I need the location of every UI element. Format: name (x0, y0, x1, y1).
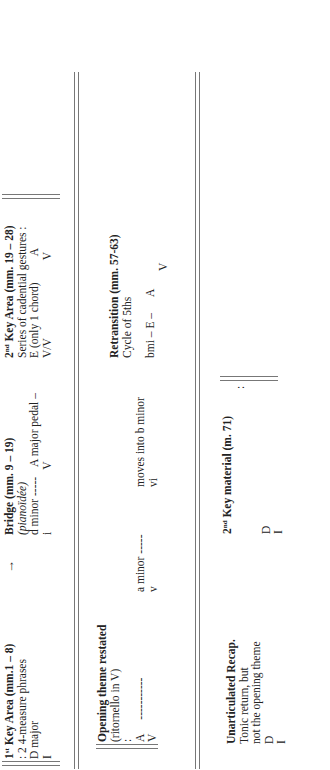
recap-line2: Tonic return, but (238, 639, 251, 744)
opening-double-barline (2, 761, 60, 766)
retransition-chain: bmi – E –A (144, 234, 157, 358)
a-minor-roman: v (147, 535, 160, 592)
bridge-section: Bridge (mm. 9 – 19) (pianoïdée) d minor … (3, 393, 53, 535)
second-key-area-romans: V/VV (41, 226, 54, 358)
form-chart-page: 1st Key Area (mm.1 – 8) : 2 4-measure ph… (0, 0, 330, 770)
bridge-keys: d minor -----A major pedal – (28, 393, 41, 535)
first-key-area-title: 1st Key Area (mm.1 – 8) (3, 644, 16, 759)
b-minor-key: moves into b minor (134, 397, 147, 487)
first-key-area-roman: I (41, 644, 54, 759)
bridge-subtitle: (pianoïdée) (16, 393, 29, 535)
opening-theme-key: A----------- (134, 625, 147, 742)
row-divider-1 (74, 72, 79, 769)
bridge-romans: iV (41, 393, 54, 535)
second-key-material-title: 2nd Key material (m. 71) (221, 416, 234, 534)
b-minor-section: moves into b minor vi (134, 397, 159, 487)
recap-key: D (263, 639, 276, 744)
retransition-subtitle: Cycle of 5ths (121, 234, 134, 358)
second-key-area-gestures: Series of cadential gestures : (16, 226, 29, 358)
opening-theme-repeat: : (121, 625, 134, 742)
unarticulated-recap: Unarticulated Recap. Tonic return, but n… (225, 639, 288, 744)
second-key-material-barline (220, 376, 278, 381)
second-key-material-roman: I (272, 416, 285, 534)
recap-line3: not the opening theme (250, 639, 263, 744)
opening-theme-title: Opening theme restated (96, 625, 109, 742)
bridge-title: Bridge (mm. 9 – 19) (3, 393, 16, 535)
second-key-area-title: 2nd Key Area (mm. 19 – 28) (3, 226, 16, 358)
a-minor-key: a minor ----- (134, 535, 147, 592)
opening-theme-roman: V (146, 625, 159, 742)
second-key-area-end-barline (2, 194, 60, 199)
second-key-material: 2nd Key material (m. 71) D I (221, 416, 285, 534)
retransition-section: Retransition (mm. 57-63) Cycle of 5ths b… (108, 234, 169, 358)
opening-theme-barline (96, 744, 158, 749)
a-minor-section: a minor ----- v (134, 535, 159, 592)
retransition-roman: V (157, 234, 170, 358)
opening-theme-subtitle: (ritornello in V) (109, 625, 122, 742)
row-divider-2 (195, 72, 200, 769)
second-key-area: 2nd Key Area (mm. 19 – 28) Series of cad… (3, 226, 53, 358)
first-key-area-phrases: : 2 4-measure phrases (16, 644, 29, 759)
retransition-title: Retransition (mm. 57-63) (108, 234, 121, 358)
recap-title: Unarticulated Recap. (225, 639, 238, 744)
second-key-material-repeat: : (234, 386, 247, 389)
second-key-area-keys: E (only 1 chord)A (28, 226, 41, 358)
arrow-icon: → (4, 560, 17, 573)
second-key-material-key: D (260, 416, 273, 534)
first-key-area: 1st Key Area (mm.1 – 8) : 2 4-measure ph… (3, 644, 53, 759)
b-minor-roman: vi (147, 397, 160, 487)
first-key-area-key: D major (28, 644, 41, 759)
recap-roman: I (275, 639, 288, 744)
opening-theme-restated: Opening theme restated (ritornello in V)… (96, 625, 159, 742)
